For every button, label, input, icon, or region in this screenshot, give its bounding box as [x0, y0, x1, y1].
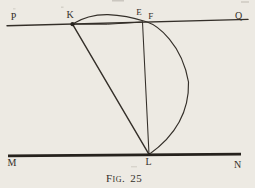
- scan-speck: [241, 1, 249, 3]
- segment-KL: [73, 24, 150, 154]
- scan-speck: [112, 0, 124, 2]
- figure-caption-label: Fig.: [106, 172, 125, 184]
- scan-speck: [131, 166, 137, 167]
- segment-EL: [143, 22, 150, 154]
- line-PQ: [7, 19, 248, 25]
- point-K-dot: [70, 22, 74, 26]
- label-K: K: [66, 9, 74, 20]
- line-MN: [8, 154, 241, 156]
- scanned-figure-page: P K E F Q M L N Fig.25: [0, 0, 255, 188]
- label-L: L: [145, 156, 151, 167]
- point-L-dot: [148, 153, 151, 156]
- label-Q: Q: [235, 10, 243, 21]
- scan-speck: [13, 8, 16, 10]
- label-M: M: [8, 157, 17, 168]
- label-N: N: [234, 159, 241, 170]
- label-F: F: [148, 11, 153, 21]
- label-E: E: [136, 7, 142, 17]
- label-P: P: [11, 11, 17, 22]
- figure-caption: Fig.25: [106, 172, 142, 184]
- geometry-figure-25: P K E F Q M L N Fig.25: [0, 0, 255, 188]
- figure-caption-number: 25: [130, 172, 142, 184]
- arc-K-F-L: [73, 15, 189, 155]
- scan-speck: [61, 7, 64, 9]
